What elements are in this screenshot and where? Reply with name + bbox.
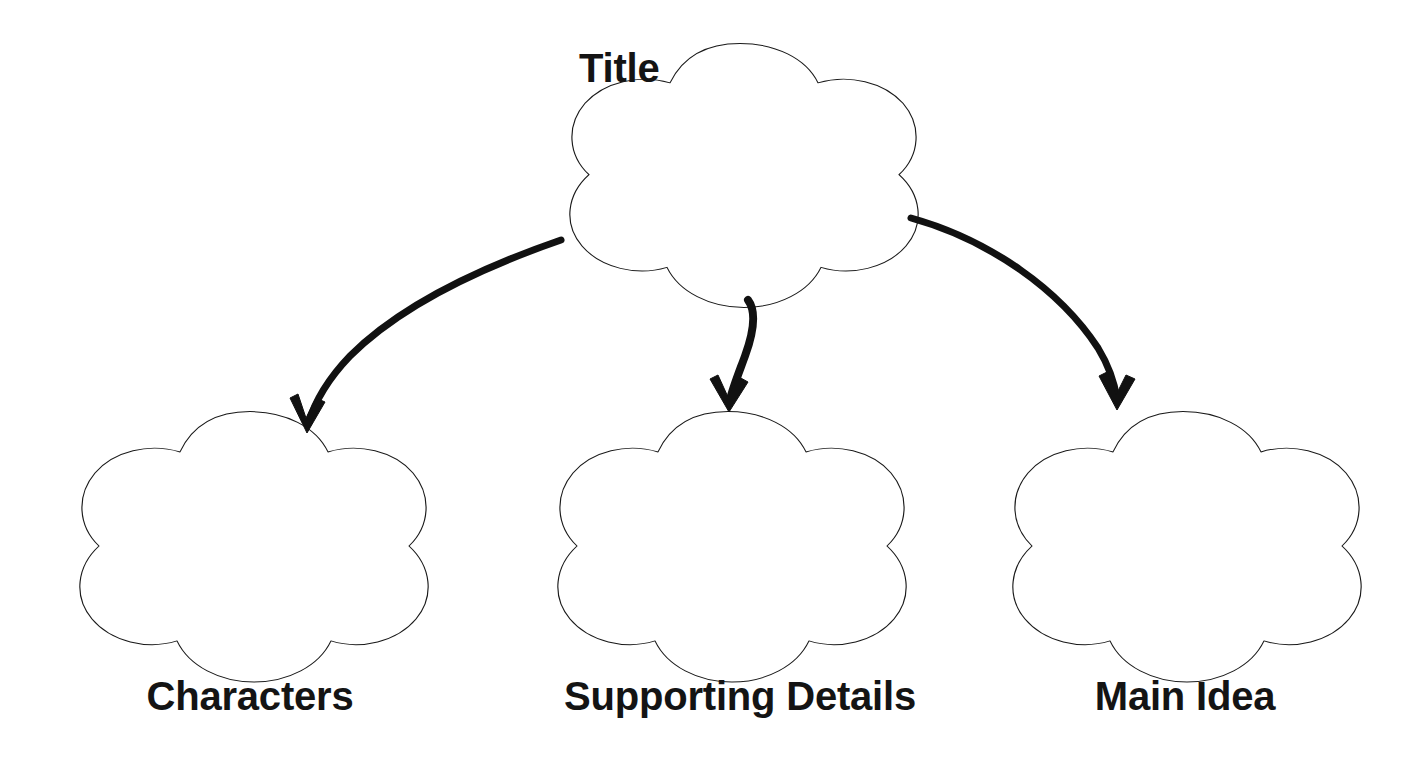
connector-title-to-characters: [290, 240, 561, 433]
title-node-label: Title: [579, 48, 660, 88]
characters-node-shape[interactable]: [80, 412, 428, 682]
connector-title-to-main-idea-line: [911, 218, 1117, 399]
characters-node-label: Characters: [70, 676, 430, 716]
organizer-diagram: [0, 0, 1424, 758]
connector-title-to-characters-line: [308, 240, 561, 424]
main-idea-node-label: Main Idea: [1005, 676, 1365, 716]
connector-title-to-supporting-details: [710, 300, 753, 412]
worksheet-canvas: Title Characters Supporting Details Main…: [0, 0, 1424, 758]
supporting-details-node-shape[interactable]: [558, 412, 906, 682]
connector-title-to-main-idea: [911, 218, 1135, 410]
main-idea-node-shape[interactable]: [1013, 412, 1361, 682]
supporting-details-node-label: Supporting Details: [560, 676, 920, 716]
